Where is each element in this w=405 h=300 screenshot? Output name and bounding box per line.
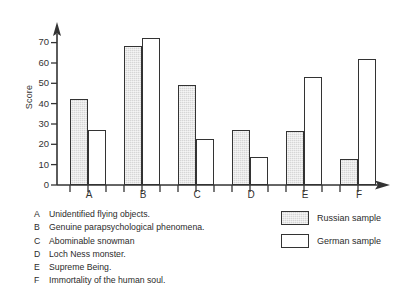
legend-label-german: German sample xyxy=(317,236,381,246)
caption-text-F: Immortality of the human soul. xyxy=(49,274,274,287)
bar-B-russian[interactable] xyxy=(124,46,142,185)
bar-E-russian[interactable] xyxy=(286,131,304,185)
bar-D-russian[interactable] xyxy=(232,130,250,185)
caption-key-B: B xyxy=(34,221,49,234)
legend-entry-russian: Russian sample xyxy=(281,211,381,225)
series-legend: Russian sample German sample xyxy=(281,211,381,257)
caption-key-C: C xyxy=(34,235,49,248)
category-legend-list: A Unidentified flying objects. B Genuine… xyxy=(34,208,274,288)
bar-E-german[interactable] xyxy=(304,77,322,185)
list-item: B Genuine parapsychological phenomena. xyxy=(34,221,274,234)
x-tick-label-A: A xyxy=(79,189,99,200)
caption-text-D: Loch Ness monster. xyxy=(49,248,274,261)
caption-text-C: Abominable snowman xyxy=(49,235,274,248)
x-tick-label-F: F xyxy=(349,189,369,200)
bar-A-german[interactable] xyxy=(88,130,106,185)
list-item: C Abominable snowman xyxy=(34,235,274,248)
bar-F-russian[interactable] xyxy=(340,159,358,186)
bar-chart-figure: Score 70 60 50 40 30 20 10 0 xyxy=(0,0,405,300)
list-item: A Unidentified flying objects. xyxy=(34,208,274,221)
bar-D-german[interactable] xyxy=(250,157,268,186)
x-tick-label-B: B xyxy=(133,189,153,200)
list-item: F Immortality of the human soul. xyxy=(34,274,274,287)
bar-B-german[interactable] xyxy=(142,38,160,185)
bars-layer xyxy=(0,0,405,185)
legend-swatch-russian-icon xyxy=(281,211,309,225)
legend-entry-german: German sample xyxy=(281,234,381,248)
caption-text-A: Unidentified flying objects. xyxy=(49,208,274,221)
legend-swatch-german-icon xyxy=(281,234,309,248)
caption-key-F: F xyxy=(34,274,49,287)
x-tick-label-D: D xyxy=(241,189,261,200)
bar-A-russian[interactable] xyxy=(70,99,88,185)
bar-F-german[interactable] xyxy=(358,59,376,185)
caption-key-D: D xyxy=(34,248,49,261)
x-tick-label-C: C xyxy=(187,189,207,200)
plot-area: Score 70 60 50 40 30 20 10 0 xyxy=(0,0,405,205)
list-item: E Supreme Being. xyxy=(34,261,274,274)
list-item: D Loch Ness monster. xyxy=(34,248,274,261)
legend-label-russian: Russian sample xyxy=(317,213,381,223)
caption-text-B: Genuine parapsychological phenomena. xyxy=(49,221,274,234)
bar-C-russian[interactable] xyxy=(178,85,196,185)
caption-text-E: Supreme Being. xyxy=(49,261,274,274)
x-tick-label-E: E xyxy=(295,189,315,200)
bar-C-german[interactable] xyxy=(196,139,214,185)
caption-key-E: E xyxy=(34,261,49,274)
caption-key-A: A xyxy=(34,208,49,221)
